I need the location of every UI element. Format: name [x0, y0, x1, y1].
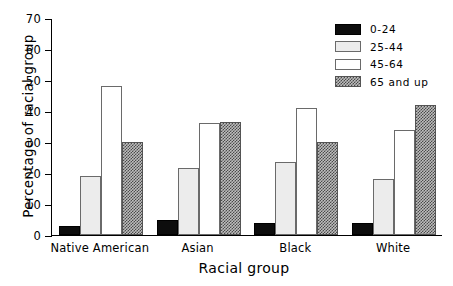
chart-legend: 0-2425-4445-6465 and up — [335, 23, 429, 88]
bar — [122, 142, 143, 235]
y-axis-tick: 50 — [45, 81, 52, 82]
legend-label: 25-44 — [370, 41, 404, 53]
bar — [352, 223, 373, 235]
y-axis-tick-label: 60 — [26, 43, 41, 57]
legend-label: 65 and up — [370, 76, 429, 88]
legend-swatch-icon — [335, 59, 361, 70]
bar — [296, 108, 317, 235]
bar — [317, 142, 338, 235]
legend-swatch-icon — [335, 24, 361, 35]
legend-item: 45-64 — [335, 58, 429, 70]
legend-label: 0-24 — [370, 23, 396, 35]
y-axis-tick-label: 30 — [26, 136, 41, 150]
bar — [254, 223, 275, 235]
y-axis-tick: 60 — [45, 50, 52, 51]
y-axis-tick: 70 — [45, 19, 52, 20]
y-axis-tick-label: 20 — [26, 167, 41, 181]
y-axis-tick: 30 — [45, 143, 52, 144]
bar — [220, 122, 241, 235]
bar — [59, 226, 80, 235]
y-axis-tick-label: 40 — [26, 105, 41, 119]
bar — [394, 130, 415, 235]
legend-item: 65 and up — [335, 76, 429, 88]
legend-label: 45-64 — [370, 58, 404, 70]
legend-item: 0-24 — [335, 23, 429, 35]
x-axis-tick-label: Asian — [181, 241, 213, 255]
legend-swatch-icon — [335, 41, 361, 52]
bar — [178, 168, 199, 235]
x-axis-title: Racial group — [44, 260, 444, 276]
bar — [157, 220, 178, 236]
y-axis-tick-label: 10 — [26, 198, 41, 212]
y-axis-tick: 40 — [45, 112, 52, 113]
x-axis-tick-label: Black — [279, 241, 311, 255]
legend-item: 25-44 — [335, 41, 429, 53]
y-axis-tick: 10 — [45, 205, 52, 206]
bar — [373, 179, 394, 235]
bar — [275, 162, 296, 235]
y-axis-tick: 20 — [45, 174, 52, 175]
x-axis-tick-label: Native American — [51, 241, 150, 255]
bar-chart: Percentage of racial group 0102030405060… — [0, 0, 453, 286]
bar — [101, 86, 122, 235]
x-axis-tick-label: White — [376, 241, 410, 255]
bar — [199, 123, 220, 235]
bar — [80, 176, 101, 235]
legend-swatch-icon — [335, 76, 361, 87]
y-axis-tick-label: 0 — [33, 229, 41, 243]
y-axis-tick: 0 — [45, 236, 52, 237]
bar — [415, 105, 436, 235]
y-axis-tick-label: 50 — [26, 74, 41, 88]
y-axis-tick-label: 70 — [26, 12, 41, 26]
